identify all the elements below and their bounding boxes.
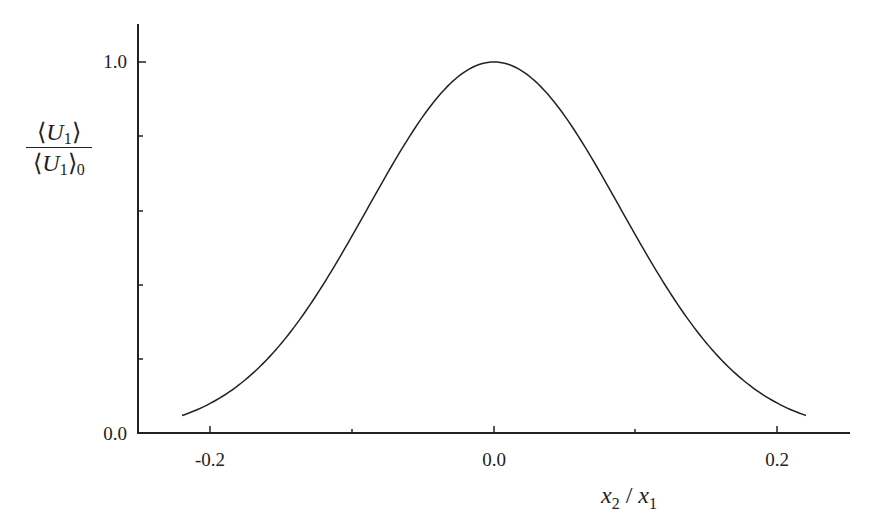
y-ticks — [138, 62, 146, 359]
y-axis-label: ⟨U1⟩ ⟨U1⟩0 — [24, 118, 94, 177]
y-label-numerator: ⟨U1⟩ — [24, 118, 94, 146]
fraction-bar — [26, 147, 92, 148]
y-label-denominator: ⟨U1⟩0 — [24, 149, 94, 177]
x-axis-label: x2 / x1 — [600, 482, 657, 512]
y-tick-label-top: 1.0 — [103, 51, 127, 72]
x-tick-label-left: -0.2 — [195, 449, 225, 470]
x-tick-label-right: 0.2 — [765, 449, 789, 470]
x-tick-label-mid: 0.0 — [482, 449, 506, 470]
x-ticks — [210, 426, 777, 433]
y-tick-label-bottom: 0.0 — [103, 423, 127, 444]
chart-canvas: 1.0 0.0 -0.2 0.0 0.2 x2 / x1 — [0, 0, 875, 529]
gaussian-curve — [182, 62, 806, 416]
